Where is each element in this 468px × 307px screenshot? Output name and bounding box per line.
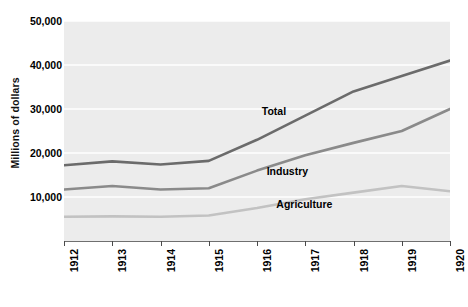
y-axis-title: Millions of dollars <box>2 0 28 245</box>
x-tick-mark <box>209 241 210 246</box>
x-tick-mark <box>354 241 355 246</box>
x-tick-mark <box>161 241 162 246</box>
series-line-agriculture <box>64 186 450 217</box>
y-tick-label: 10,000 <box>22 191 62 203</box>
x-tick-label: 1912 <box>68 249 80 272</box>
x-tick-mark <box>112 241 113 246</box>
x-tick-mark <box>450 241 451 246</box>
y-tick-label: 40,000 <box>22 59 62 71</box>
x-tick-label: 1917 <box>309 249 321 272</box>
x-tick-label: 1920 <box>454 249 466 272</box>
x-tick-mark <box>305 241 306 246</box>
x-tick-label: 1919 <box>406 249 418 272</box>
y-tick-label: 50,000 <box>22 15 62 27</box>
x-tick-label: 1918 <box>358 249 370 272</box>
x-tick-label: 1915 <box>213 249 225 272</box>
series-label-industry: Industry <box>267 165 308 177</box>
plot-svg <box>64 21 450 241</box>
series-line-total <box>64 61 450 166</box>
y-axis-tick-labels: 10,00020,00030,00040,00050,000 <box>22 0 62 307</box>
series-label-total: Total <box>262 105 286 117</box>
x-tick-label: 1913 <box>116 249 128 272</box>
x-tick-label: 1914 <box>165 249 177 272</box>
plot-area: TotalIndustryAgriculture <box>64 21 450 241</box>
series-line-industry <box>64 109 450 190</box>
x-tick-mark <box>64 241 65 246</box>
series-lines <box>64 61 450 217</box>
y-tick-label: 30,000 <box>22 103 62 115</box>
x-tick-mark <box>257 241 258 246</box>
x-tick-label: 1916 <box>261 249 273 272</box>
series-label-agriculture: Agriculture <box>276 198 332 210</box>
x-axis-tick-labels: 191219131914191519161917191819191920 <box>64 241 450 307</box>
y-axis-title-label: Millions of dollars <box>9 77 21 168</box>
x-tick-mark <box>402 241 403 246</box>
line-chart: Millions of dollars 10,00020,00030,00040… <box>0 0 468 307</box>
y-tick-label: 20,000 <box>22 147 62 159</box>
